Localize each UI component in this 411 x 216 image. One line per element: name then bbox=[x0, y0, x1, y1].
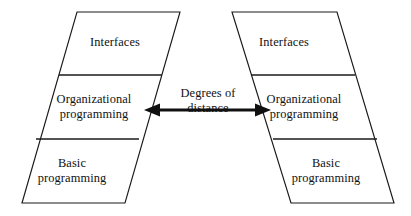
left-band-label-basic-programming: Basic programming bbox=[20, 156, 124, 185]
connector-label-degrees-of-distance: Degrees of distance bbox=[150, 86, 266, 116]
left-band-label-interfaces: Interfaces bbox=[63, 35, 167, 50]
left-band-label-organizational-programming: Organizational programming bbox=[42, 92, 146, 121]
diagram-root: Interfaces Organizational programming Ba… bbox=[0, 0, 411, 216]
right-band-label-organizational-programming: Organizational programming bbox=[252, 92, 356, 121]
right-band-label-basic-programming: Basic programming bbox=[274, 156, 378, 185]
right-band-label-interfaces: Interfaces bbox=[232, 35, 336, 50]
